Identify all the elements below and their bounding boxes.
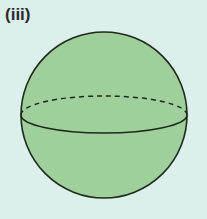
sphere-body <box>21 32 187 198</box>
sphere-diagram <box>0 0 207 219</box>
